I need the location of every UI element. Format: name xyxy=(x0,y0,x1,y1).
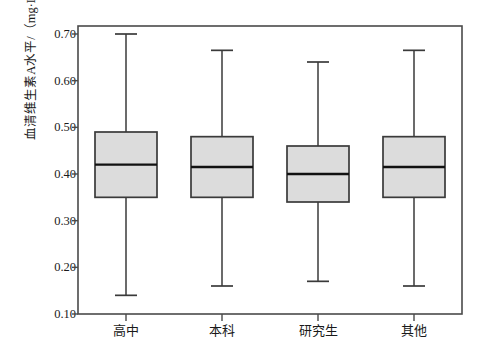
plot-area xyxy=(0,0,488,363)
box-plot-series xyxy=(287,62,349,281)
x-tick-label-2: 研究生 xyxy=(273,324,363,337)
x-tick-label-0: 高中 xyxy=(81,324,171,337)
box-plot-series xyxy=(383,50,445,286)
x-tick-label-3: 其他 xyxy=(369,324,459,337)
x-tick-label-1: 本科 xyxy=(177,324,267,337)
box-plot-series xyxy=(95,34,157,295)
boxplot-chart: 血清维生素A水平/（mg·L⁻¹） 0.70 0.60 0.50 0.40 0.… xyxy=(0,0,488,363)
box-plot-series xyxy=(191,50,253,286)
